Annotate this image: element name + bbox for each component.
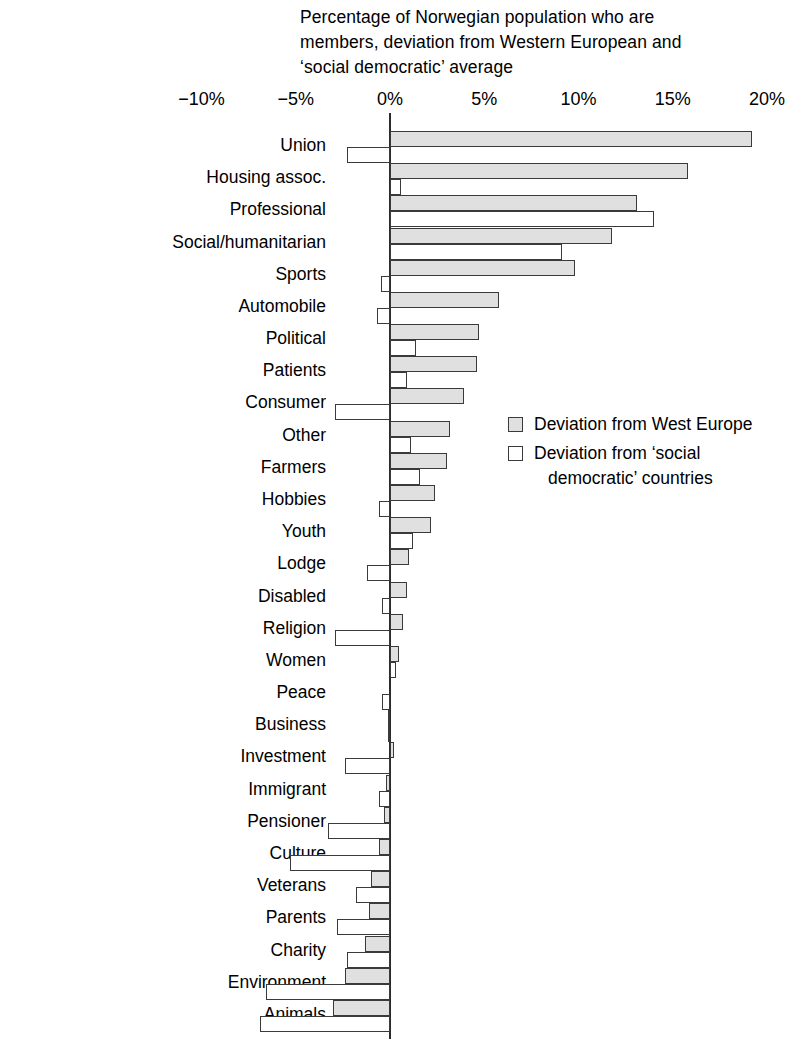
bar <box>390 469 420 485</box>
bar <box>388 726 390 742</box>
bar <box>347 147 390 163</box>
chart-legend: Deviation from West EuropeDeviation from… <box>508 412 796 495</box>
bar <box>390 356 477 372</box>
bar <box>377 308 390 324</box>
bar <box>390 244 562 260</box>
bar <box>390 646 399 662</box>
bar <box>390 421 450 437</box>
bar <box>390 388 464 404</box>
bar <box>371 871 390 887</box>
bar <box>390 195 637 211</box>
bar <box>347 952 390 968</box>
bar <box>333 1000 390 1016</box>
bar <box>379 839 390 855</box>
bar <box>390 533 413 549</box>
bar <box>382 694 390 710</box>
bar <box>290 855 390 871</box>
legend-item: Deviation from West Europe <box>508 412 796 437</box>
bar <box>335 404 390 420</box>
bar <box>379 501 390 517</box>
outline-square-icon <box>508 446 523 461</box>
bar <box>390 324 479 340</box>
bar <box>345 968 390 984</box>
bar <box>390 340 416 356</box>
bar <box>390 163 688 179</box>
bar <box>390 292 499 308</box>
bar <box>390 260 575 276</box>
bar <box>367 565 390 581</box>
bar <box>365 936 390 952</box>
bar <box>390 372 407 388</box>
legend-label: Deviation from West Europe <box>534 412 753 437</box>
bar <box>328 823 390 839</box>
bar <box>390 437 411 453</box>
bar <box>390 614 403 630</box>
bar <box>386 775 390 791</box>
bar <box>390 131 752 147</box>
bar <box>345 758 390 774</box>
bar <box>390 179 401 195</box>
bar <box>356 887 390 903</box>
bar <box>381 276 390 292</box>
bar <box>337 919 390 935</box>
bar <box>382 598 390 614</box>
bar <box>388 710 390 726</box>
bar <box>384 807 390 823</box>
bar <box>335 630 390 646</box>
bar-chart: Percentage of Norwegian population who a… <box>0 0 796 1039</box>
bar <box>390 582 407 598</box>
bar <box>390 228 612 244</box>
bar <box>390 549 409 565</box>
filled-square-icon <box>508 417 523 432</box>
legend-item: Deviation from ‘socialdemocratic’ countr… <box>508 441 796 491</box>
bar <box>379 791 390 807</box>
bar <box>390 211 654 227</box>
bar <box>266 984 390 1000</box>
legend-label: Deviation from ‘socialdemocratic’ countr… <box>534 441 713 491</box>
plot-area <box>0 0 796 1039</box>
bar <box>390 662 396 678</box>
bar <box>369 903 390 919</box>
bar <box>390 742 394 758</box>
bar <box>390 485 435 501</box>
bar <box>260 1016 390 1032</box>
bar <box>390 517 431 533</box>
bar <box>390 453 447 469</box>
legend-label-line2: democratic’ countries <box>534 466 713 491</box>
